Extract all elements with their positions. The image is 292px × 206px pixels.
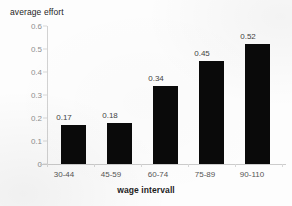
y-tick-label-1: 0.5 bbox=[31, 45, 42, 54]
plot-area bbox=[47, 26, 283, 164]
x-tick-mark-0 bbox=[47, 164, 48, 167]
bar-value-60-74: 0.34 bbox=[136, 74, 176, 83]
bar-60-74 bbox=[153, 86, 178, 164]
y-tick-label-0: 0.6 bbox=[31, 22, 42, 31]
y-tick-label-5: 0.1 bbox=[31, 137, 42, 146]
x-tick-mark-2 bbox=[141, 164, 142, 167]
x-tick-label-45-59: 45-59 bbox=[85, 170, 137, 179]
bar-value-30-44: 0.17 bbox=[44, 113, 84, 122]
bar-45-59 bbox=[107, 123, 132, 164]
y-tick-label-2: 0.4 bbox=[31, 68, 42, 77]
x-axis-title: wage intervall bbox=[0, 185, 292, 195]
bar-value-90-110: 0.52 bbox=[228, 32, 268, 41]
x-tick-mark-3 bbox=[188, 164, 189, 167]
x-tick-mark-1 bbox=[94, 164, 95, 167]
bar-value-45-59: 0.18 bbox=[90, 111, 130, 120]
y-axis-tick-labels: 0.6 0.5 0.4 0.3 0.2 0.1 0 bbox=[0, 0, 42, 206]
y-tick-label-4: 0.2 bbox=[31, 114, 42, 123]
x-tick-label-30-44: 30-44 bbox=[38, 170, 90, 179]
y-tick-label-3: 0.3 bbox=[31, 91, 42, 100]
bar-90-110 bbox=[245, 44, 270, 164]
bar-value-75-89: 0.45 bbox=[182, 49, 222, 58]
bar-chart-figure: average effort 0.6 0.5 0.4 0.3 0.2 0.1 0… bbox=[0, 0, 292, 206]
bar-30-44 bbox=[61, 125, 86, 164]
x-tick-mark-4 bbox=[235, 164, 236, 167]
x-tick-label-90-110: 90-110 bbox=[226, 170, 278, 179]
x-tick-label-60-74: 60-74 bbox=[132, 170, 184, 179]
bar-75-89 bbox=[199, 61, 224, 165]
x-tick-label-75-89: 75-89 bbox=[179, 170, 231, 179]
x-tick-mark-5 bbox=[282, 164, 283, 167]
